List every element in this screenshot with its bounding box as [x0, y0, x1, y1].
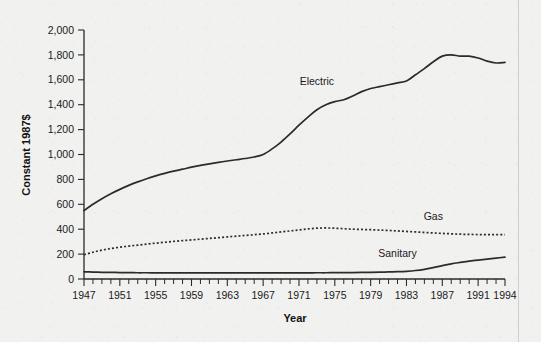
series-line-electric — [84, 55, 505, 211]
y-axis-tick-marks — [78, 30, 84, 279]
x-tick-label: 1951 — [108, 289, 132, 301]
y-tick-label: 600 — [56, 198, 74, 210]
y-tick-label: 2,000 — [48, 24, 74, 36]
x-tick-label: 1959 — [180, 289, 204, 301]
series-line-gas — [84, 228, 505, 255]
x-tick-label: 1967 — [251, 289, 275, 301]
x-tick-label: 1991 — [466, 289, 490, 301]
y-tick-label: 200 — [56, 248, 74, 260]
x-tick-label: 1971 — [287, 289, 311, 301]
x-tick-label: 1994 — [493, 289, 517, 301]
y-tick-label: 0 — [68, 273, 74, 285]
x-axis-title: Year — [283, 312, 307, 324]
y-tick-label: 1,400 — [48, 98, 74, 110]
y-axis-title: Constant 1987$ — [20, 114, 32, 195]
x-axis-tick-marks — [84, 279, 505, 286]
x-tick-label: 1979 — [359, 289, 383, 301]
y-tick-label: 1,000 — [48, 148, 74, 160]
y-tick-label: 1,200 — [48, 123, 74, 135]
y-tick-label: 400 — [56, 223, 74, 235]
series-paths — [84, 55, 505, 273]
y-tick-label: 1,800 — [48, 49, 74, 61]
x-tick-label: 1955 — [144, 289, 168, 301]
x-tick-label: 1975 — [323, 289, 347, 301]
series-annotations: ElectricGasSanitary — [300, 75, 443, 259]
chart-page: 02004006008001,0001,2001,4001,6001,8002,… — [0, 0, 541, 342]
y-axis-tick-labels: 02004006008001,0001,2001,4001,6001,8002,… — [48, 24, 74, 285]
series-annotation-electric: Electric — [300, 75, 334, 87]
x-tick-label: 1987 — [431, 289, 455, 301]
x-tick-label: 1947 — [72, 289, 96, 301]
x-axis-tick-labels: 1947195119551959196319671971197519791983… — [72, 289, 517, 301]
series-line-sanitary — [84, 257, 505, 273]
y-tick-label: 1,600 — [48, 73, 74, 85]
line-chart: 02004006008001,0001,2001,4001,6001,8002,… — [0, 0, 541, 342]
series-annotation-sanitary: Sanitary — [378, 247, 417, 259]
x-tick-label: 1963 — [216, 289, 240, 301]
series-annotation-gas: Gas — [424, 210, 443, 222]
x-tick-label: 1983 — [395, 289, 419, 301]
y-tick-label: 800 — [56, 173, 74, 185]
